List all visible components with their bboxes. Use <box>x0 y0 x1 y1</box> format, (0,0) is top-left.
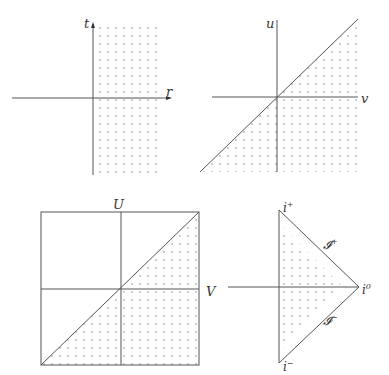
t-axis-label: t <box>84 16 90 31</box>
u-axis-label: u <box>266 16 274 31</box>
scri-plus-label: 𝓘+ <box>323 237 338 252</box>
r-axis-label: r <box>166 84 173 99</box>
panel-minkowski-tr: t r <box>12 16 173 175</box>
v-axis-label: v <box>361 91 369 106</box>
diagram-canvas: t r u v U V i+ i− i0 𝓘+ 𝓘− <box>0 0 389 375</box>
i-zero-label: i0 <box>362 282 371 297</box>
i-minus-label: i− <box>283 359 294 374</box>
V-axis-label: V <box>206 284 217 299</box>
i-plus-label: i+ <box>283 200 294 215</box>
scri-minus-label: 𝓘− <box>323 313 338 328</box>
panel-compactified-UV: U V <box>41 197 217 365</box>
panel-penrose-diagram: i+ i− i0 𝓘+ 𝓘− <box>228 200 371 374</box>
panel-null-uv: u v <box>200 16 369 172</box>
U-axis-label: U <box>113 197 125 212</box>
